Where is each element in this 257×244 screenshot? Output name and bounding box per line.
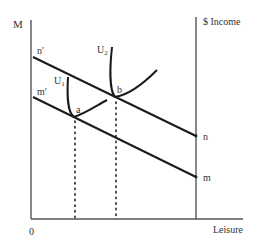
point-a-label: a <box>76 104 81 115</box>
leisure-income-diagram: M $ Income Leisure 0 n′ m′ n m U1 U2 a b <box>0 0 257 244</box>
x-axis-label: Leisure <box>213 224 244 235</box>
point-b-label: b <box>117 84 122 95</box>
budget-lower-start-label: m′ <box>37 86 47 97</box>
y-axis-right-label: $ Income <box>203 16 241 27</box>
budget-lower-end-label: m <box>203 172 211 183</box>
curve-u1-label: U1 <box>54 75 65 88</box>
point-n-marker <box>195 135 198 138</box>
curve-u2-label: U2 <box>97 44 108 57</box>
point-m-marker <box>195 176 198 179</box>
budget-upper-start-label: n′ <box>37 45 44 56</box>
y-axis-left-label: M <box>13 18 23 30</box>
curve-u2-subscript: 2 <box>104 49 108 57</box>
diagram-canvas: M $ Income Leisure 0 n′ m′ n m U1 U2 a b <box>0 0 257 244</box>
curve-u1-subscript: 1 <box>61 80 65 88</box>
budget-upper-end-label: n <box>203 131 208 142</box>
budget-line-lower <box>33 97 196 177</box>
origin-label: 0 <box>29 226 34 237</box>
